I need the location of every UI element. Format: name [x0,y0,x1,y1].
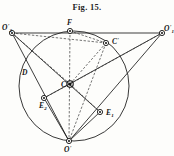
point-marker-core-F [69,30,71,32]
figure-drawing-canvas: O'2O'1O'FC'CE2E1D [0,0,174,156]
label-subscript-E1: 1 [111,113,114,118]
point-marker-group [9,28,164,143]
label-subscript-E2: 2 [43,106,47,111]
label-C: C' [112,37,119,46]
main-circle [19,31,129,141]
point-marker-core-Op [68,140,70,142]
dash-F-Op [69,31,70,141]
label-prime-C: ' [117,37,119,43]
point-marker-core-Ctr [69,83,72,86]
label-prime-Op: ' [70,145,72,151]
dash-C-Op [69,43,106,141]
label-D: D [21,68,28,77]
point-marker-core-C [105,42,107,44]
point-marker-core-E2 [43,97,45,99]
dash-C-Ctr [70,43,106,84]
label-O1p: O'1 [164,24,174,34]
circle-group [19,31,129,141]
figure-container: Fig. 15. O'2O'1O'FC'CE2E1D [0,0,174,156]
label-letter-E1: E [105,108,111,117]
label-F: F [67,18,72,27]
point-label-group: O'2O'1O'FC'CE2E1D [2,18,174,154]
point-marker-core-O1p [161,32,163,34]
label-letter-F: F [67,18,72,27]
label-Op: O' [64,145,72,154]
label-E2: E2 [38,101,47,111]
label-O2p: O'2 [2,23,12,33]
point-marker-core-E1 [99,111,101,113]
label-subscript-O1p: 1 [171,29,174,34]
line-O1p-Op [69,33,162,141]
label-E1: E1 [105,108,114,118]
label-letter-E2: E [38,101,44,110]
label-subscript-O2p: 2 [8,28,12,33]
label-letter-D: D [21,68,28,77]
dash-O2p-C [12,33,106,43]
